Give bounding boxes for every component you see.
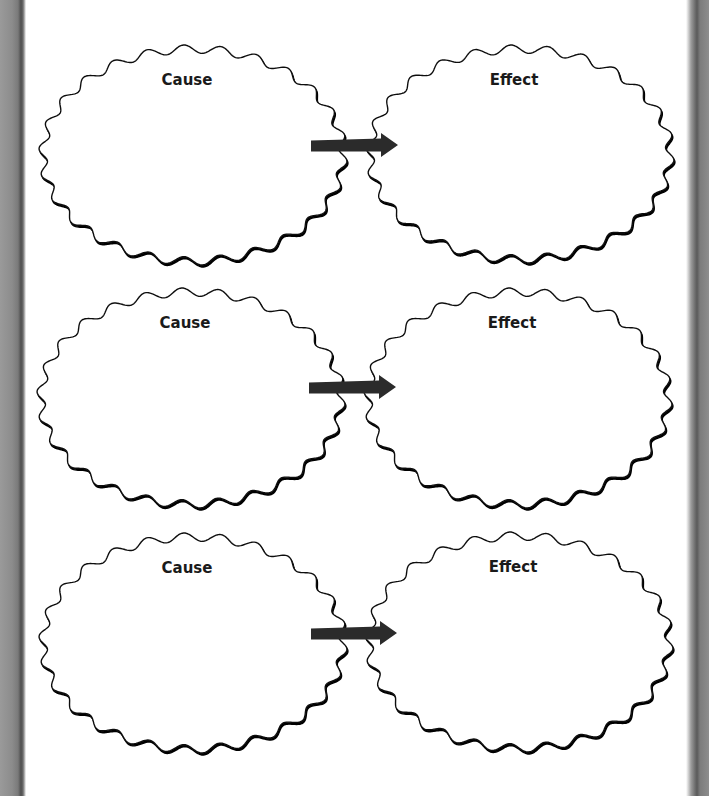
worksheet-page: CauseEffect CauseEffect CauseEffect <box>0 0 709 796</box>
effect-label-3: Effect <box>489 558 538 576</box>
cause-effect-row-2: CauseEffect <box>37 288 672 508</box>
cause-effect-row-1: CauseEffect <box>39 45 674 265</box>
cause-label-1: Cause <box>162 71 213 89</box>
cause-label-2: Cause <box>160 314 211 332</box>
effect-label-2: Effect <box>488 314 537 332</box>
cause-effect-row-3: CauseEffect <box>39 532 673 753</box>
cause-label-3: Cause <box>162 559 213 577</box>
effect-label-1: Effect <box>490 71 539 89</box>
cause-effect-diagram: CauseEffect CauseEffect CauseEffect <box>0 0 709 796</box>
